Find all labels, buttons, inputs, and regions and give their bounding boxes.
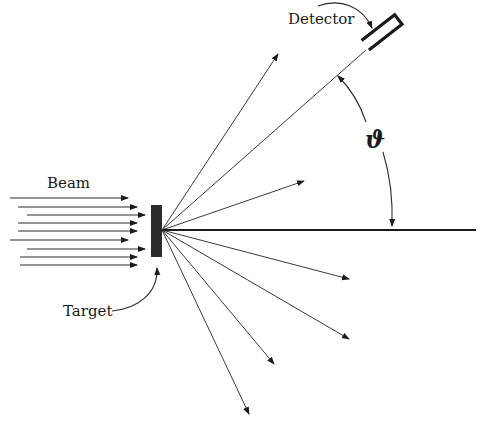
incident-beam [10,198,145,265]
angle-arc-upper [338,76,366,122]
scattered-rays [162,54,349,414]
scattered-ray-arrow [162,230,349,339]
target-callout-arrow [112,268,157,311]
target-block [151,205,162,257]
angle-arc-lower [383,152,392,226]
target-label: Target [63,302,112,320]
scattering-diagram: Beam Target Detector ϑ [0,0,483,426]
scattered-ray-arrow [162,54,278,230]
scattered-ray-arrow [162,230,349,279]
scattered-ray-arrow [162,230,249,414]
scattered-ray-arrow [162,181,304,230]
scattered-ray-arrow [162,230,274,364]
beam-label: Beam [47,174,90,192]
angle-theta-label: ϑ [365,125,385,154]
detector-label: Detector [288,10,355,28]
detector-ray [162,50,366,230]
